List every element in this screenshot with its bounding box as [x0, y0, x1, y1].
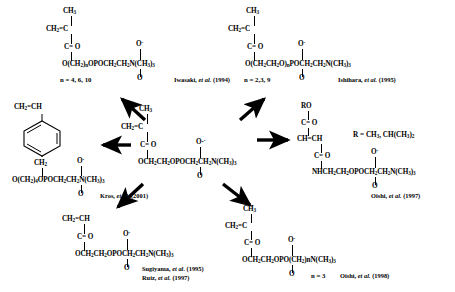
- arrow-to-top-right: [240, 99, 264, 120]
- reaction-arrows: [0, 0, 455, 292]
- arrow-to-bottom-right: [223, 184, 250, 205]
- arrow-to-top-left: [122, 99, 145, 120]
- chemical-scheme-figure: CH3 CH2=C C= O O- O(CH2)nOPOCH2CH2N(CH3)…: [0, 0, 455, 292]
- arrow-to-bottom-left: [118, 184, 143, 207]
